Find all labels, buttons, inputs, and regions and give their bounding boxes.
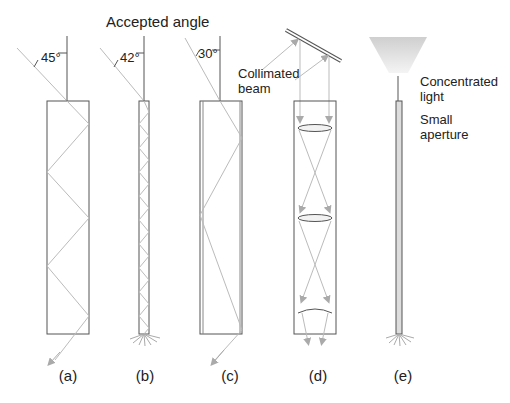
panel-a-fiber bbox=[17, 36, 89, 363]
diagram-canvas bbox=[0, 0, 510, 403]
concentrated-light-label: Concentrated light bbox=[420, 74, 498, 104]
angle-label-c: 30° bbox=[198, 46, 218, 61]
panel-c-fiber bbox=[185, 36, 242, 363]
small-aperture-label: Small aperture bbox=[420, 112, 468, 142]
angle-label-b: 42° bbox=[120, 50, 140, 65]
caption-c: (c) bbox=[221, 367, 239, 384]
caption-e: (e) bbox=[394, 367, 412, 384]
caption-d: (d) bbox=[309, 367, 327, 384]
collimated-beam-label: Collimated beam bbox=[238, 66, 299, 96]
panel-b-fiber bbox=[100, 36, 160, 346]
angle-label-a: 45° bbox=[41, 50, 61, 65]
caption-a: (a) bbox=[59, 367, 77, 384]
caption-b: (b) bbox=[136, 367, 154, 384]
diagram-title: Accepted angle bbox=[106, 13, 209, 30]
panel-e-fiber bbox=[369, 37, 427, 346]
